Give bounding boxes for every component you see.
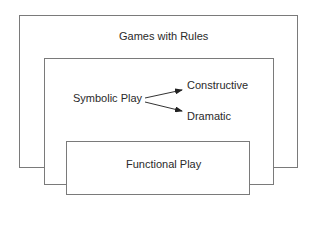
functional-play-label: Functional Play: [126, 159, 201, 170]
arrow-to-dramatic: [145, 102, 182, 111]
arrow-to-constructive: [145, 90, 182, 98]
